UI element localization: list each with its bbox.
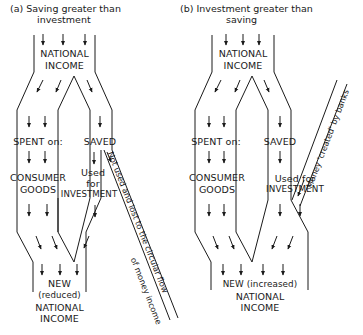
panel-a-spent-label: SPENT on: — [12, 136, 64, 147]
panel-a-new-income-4: INCOME — [28, 313, 91, 324]
panel-b-national-income-2: INCOME — [212, 60, 274, 71]
panel-b-saved-label: SAVED — [262, 136, 298, 147]
panel-a-used-for-investment: Used — [78, 167, 108, 178]
panel-a-title: (a) Saving greater than — [10, 4, 121, 15]
panel-a-consumer-goods-2: GOODS — [8, 184, 68, 195]
panel-b-new-income-3: INCOME — [212, 302, 308, 313]
panel-a-used-for-investment-2: for — [78, 178, 108, 189]
panel-b-channel-outline — [195, 35, 308, 290]
panel-a-new-income-2: (reduced) — [33, 290, 86, 301]
panel-b-national-income: NATIONAL — [212, 48, 274, 59]
panel-a-saved-label: SAVED — [82, 136, 118, 147]
panel-b-spent-label: SPENT on: — [190, 136, 242, 147]
panel-b-used-for-investment: Used for — [260, 173, 330, 184]
panel-b-used-for-investment-2: INVESTMENT — [256, 184, 334, 195]
panel-a-used-for-investment-3: INVESTMENT — [60, 189, 118, 200]
panel-a-new-income: NEW — [33, 278, 86, 289]
panel-b-consumer-goods: CONSUMER — [187, 172, 247, 183]
panel-a-title-2: investment — [37, 15, 91, 26]
panel-a-national-income-2: INCOME — [34, 60, 95, 71]
panel-a-national-income: NATIONAL — [34, 48, 95, 59]
panel-b-consumer-goods-2: GOODS — [187, 184, 247, 195]
panel-b-title-2: saving — [226, 15, 257, 26]
panel-b-new-income: NEW (increased) — [212, 279, 308, 290]
panel-a-consumer-goods: CONSUMER — [8, 172, 68, 183]
panel-b-new-income-2: NATIONAL — [212, 291, 308, 302]
panel-a-channel-outline — [17, 35, 112, 292]
panel-b-title: (b) Investment greater than — [180, 4, 313, 15]
panel-a-new-income-3: NATIONAL — [28, 302, 91, 313]
